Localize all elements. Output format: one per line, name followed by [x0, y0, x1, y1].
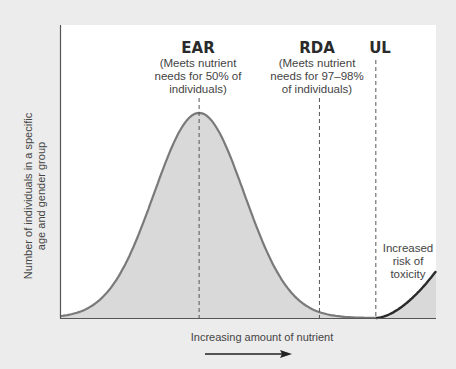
rda-desc-line-1: (Meets nutrient: [279, 57, 357, 69]
ear-desc-line-2: needs for 50% of: [155, 70, 243, 82]
x-axis-label: Increasing amount of nutrient: [191, 331, 333, 343]
toxicity-line-2: risk of: [393, 255, 424, 267]
toxicity-line-3: toxicity: [390, 268, 425, 280]
y-axis-label-line-1: Number of individuals in a specific: [22, 112, 34, 279]
rda-desc-line-2: needs for 97–98%: [270, 70, 363, 82]
ul-label: UL: [369, 39, 391, 57]
chart: EAR (Meets nutrient needs for 50% of ind…: [0, 0, 456, 369]
rda-desc-line-3: of individuals): [282, 83, 352, 95]
ear-desc-line-3: individuals): [169, 83, 227, 95]
toxicity-line-1: Increased: [383, 242, 434, 254]
ear-label: EAR: [181, 39, 215, 57]
rda-label: RDA: [299, 39, 335, 57]
ear-desc-line-1: (Meets nutrient: [160, 57, 238, 69]
y-axis-label-line-2: age and gender group: [35, 142, 47, 250]
